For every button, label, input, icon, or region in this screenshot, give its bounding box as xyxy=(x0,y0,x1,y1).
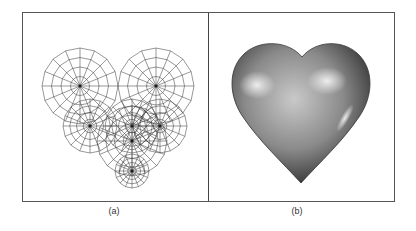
caption-a: (a) xyxy=(94,206,134,216)
rendered-heart-image xyxy=(209,13,395,203)
panel-a-wireframe xyxy=(23,13,208,201)
wireframe-mesh-illustration xyxy=(23,13,208,203)
caption-b: (b) xyxy=(277,206,317,216)
figure-frame xyxy=(22,12,395,202)
panel-b-rendered-heart xyxy=(209,13,395,201)
